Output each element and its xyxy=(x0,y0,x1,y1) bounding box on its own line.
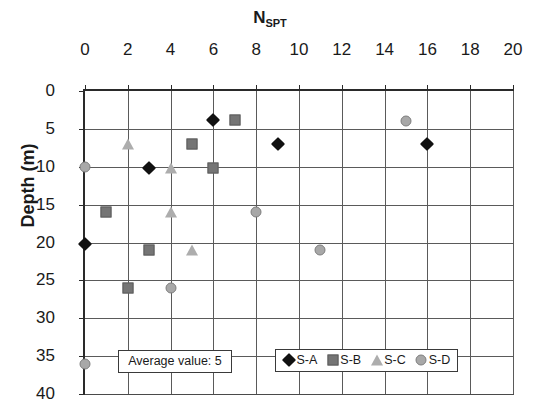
diamond-marker-icon xyxy=(282,352,296,366)
legend-swatch xyxy=(371,354,382,366)
data-point-s-b xyxy=(101,207,112,218)
x-tick xyxy=(85,85,86,91)
data-point-s-d xyxy=(80,161,91,172)
average-value-annotation: Average value: 5 xyxy=(118,350,232,373)
y-tick-label: 25 xyxy=(7,271,55,289)
x-tick xyxy=(427,85,428,91)
legend-label: S-D xyxy=(429,353,451,367)
y-tick xyxy=(79,129,85,130)
data-point-s-c xyxy=(186,245,198,256)
x-tick xyxy=(256,85,257,91)
x-tick-label: 8 xyxy=(236,41,276,59)
data-point-s-d xyxy=(165,282,176,293)
gridline-horizontal xyxy=(85,318,513,319)
data-point-s-c xyxy=(122,139,134,150)
y-tick xyxy=(79,91,85,92)
y-tick-label: 40 xyxy=(7,385,55,403)
x-tick xyxy=(513,85,514,91)
y-tick-label: 0 xyxy=(7,82,55,100)
y-tick xyxy=(79,318,85,319)
gridline-horizontal xyxy=(85,280,513,281)
x-tick-label: 10 xyxy=(279,41,319,59)
legend-label: S-C xyxy=(384,353,406,367)
data-point-s-d xyxy=(401,116,412,127)
data-point-s-a xyxy=(78,237,92,251)
x-tick xyxy=(342,85,343,91)
y-tick xyxy=(79,394,85,395)
chart-title-subscript: SPT xyxy=(265,17,286,29)
triangle-marker-icon xyxy=(371,354,383,365)
x-tick-label: 4 xyxy=(151,41,191,59)
data-point-s-b xyxy=(122,282,133,293)
x-tick xyxy=(299,85,300,91)
data-point-s-b xyxy=(187,139,198,150)
data-point-s-d xyxy=(80,358,91,369)
data-point-s-b xyxy=(229,114,240,125)
legend-swatch xyxy=(283,354,294,366)
x-tick-label: 20 xyxy=(493,41,533,59)
legend-swatch xyxy=(327,354,338,366)
gridline-horizontal xyxy=(85,243,513,244)
data-point-s-a xyxy=(142,161,156,175)
y-tick xyxy=(79,356,85,357)
legend-label: S-A xyxy=(296,353,317,367)
data-point-s-b xyxy=(208,163,219,174)
data-point-s-a xyxy=(206,113,220,127)
circle-marker-icon xyxy=(416,354,427,365)
chart-legend: S-AS-BS-CS-D xyxy=(275,349,458,372)
y-tick-label: 20 xyxy=(7,234,55,252)
chart-title-main: N xyxy=(253,8,265,27)
legend-label: S-B xyxy=(340,353,361,367)
legend-entry-s-c[interactable]: S-C xyxy=(371,353,406,367)
x-tick-label: 14 xyxy=(365,41,405,59)
x-tick xyxy=(470,85,471,91)
legend-entry-s-d[interactable]: S-D xyxy=(416,353,451,367)
data-point-s-d xyxy=(251,207,262,218)
y-tick-label: 10 xyxy=(7,158,55,176)
data-point-s-c xyxy=(165,207,177,218)
x-tick-label: 2 xyxy=(108,41,148,59)
legend-entry-s-b[interactable]: S-B xyxy=(327,353,361,367)
chart-figure: NSPT Depth (m) 02468101214161820 0510152… xyxy=(0,0,533,411)
data-point-s-c xyxy=(165,163,177,174)
data-point-s-a xyxy=(420,137,434,151)
x-tick-label: 16 xyxy=(407,41,447,59)
y-tick xyxy=(79,280,85,281)
square-marker-icon xyxy=(327,354,338,365)
legend-swatch xyxy=(416,354,427,366)
x-tick-label: 12 xyxy=(322,41,362,59)
y-tick-label: 15 xyxy=(7,196,55,214)
gridline-horizontal xyxy=(85,205,513,206)
x-tick xyxy=(171,85,172,91)
plot-area: 02468101214161820 0510152025303540 Avera… xyxy=(83,89,514,395)
x-tick-label: 6 xyxy=(193,41,233,59)
data-point-s-d xyxy=(315,245,326,256)
chart-title: NSPT xyxy=(210,8,330,29)
y-tick-label: 35 xyxy=(7,347,55,365)
x-tick-label: 18 xyxy=(450,41,490,59)
y-tick xyxy=(79,205,85,206)
gridline-vertical xyxy=(513,91,514,394)
legend-entry-s-a[interactable]: S-A xyxy=(283,353,317,367)
x-tick xyxy=(385,85,386,91)
data-point-s-b xyxy=(144,245,155,256)
data-point-s-a xyxy=(271,137,285,151)
x-tick xyxy=(213,85,214,91)
gridline-horizontal xyxy=(85,129,513,130)
y-tick-label: 5 xyxy=(7,120,55,138)
y-tick-label: 30 xyxy=(7,309,55,327)
x-tick-label: 0 xyxy=(65,41,105,59)
x-tick xyxy=(128,85,129,91)
